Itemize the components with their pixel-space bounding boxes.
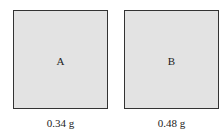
sample-b-mass: 0.48 g [123,117,220,129]
sample-b-label: B [125,55,218,67]
sample-a-mass: 0.34 g [12,117,109,129]
sample-b-square: B [124,10,219,109]
sample-a-label: A [14,55,107,67]
sample-a-square: A [13,10,108,109]
